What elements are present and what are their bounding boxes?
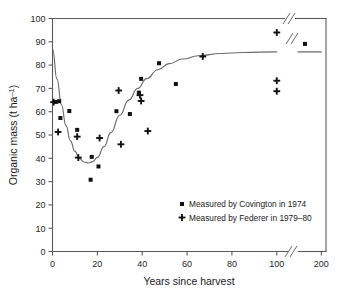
data-point-plus <box>118 141 125 148</box>
y-tick-label: 100 <box>30 14 45 24</box>
y-tick-label: 60 <box>35 107 45 117</box>
y-axis-title-main: Organic mass (t ha <box>7 96 19 185</box>
data-point-square <box>157 61 161 65</box>
legend-plus-marker <box>179 214 186 221</box>
data-point-plus <box>138 98 145 105</box>
legend-entry-label: Measured by Covington in 1974 <box>189 199 307 209</box>
data-point-square <box>174 82 178 86</box>
y-tick-label: 40 <box>35 154 45 164</box>
x-tick-label: 80 <box>227 259 237 269</box>
data-point-plus <box>273 88 280 95</box>
x-tick-label: 200 <box>314 259 329 269</box>
y-tick-label: 90 <box>35 37 45 47</box>
data-point-square <box>114 109 118 113</box>
data-point-plus <box>199 53 206 60</box>
y-tick-label: 20 <box>35 200 45 210</box>
series-federer-markers <box>50 29 280 161</box>
y-axis-title-tail: ) <box>7 85 19 89</box>
data-point-plus <box>96 135 103 142</box>
figure-container: 0102030405060708090100 020406080100200 Y… <box>0 0 348 297</box>
data-point-plus <box>115 87 122 94</box>
chart-legend: Measured by Covington in 1974Measured by… <box>179 199 312 223</box>
y-axis-ticks: 0102030405060708090100 <box>30 14 52 257</box>
y-axis-title-superscript: –1 <box>7 88 16 96</box>
y-tick-label: 80 <box>35 60 45 70</box>
y-axis-title: Organic mass (t ha–1) <box>7 85 20 186</box>
data-point-plus <box>74 133 81 140</box>
data-point-square <box>75 128 79 132</box>
data-point-square <box>57 99 61 103</box>
data-point-square <box>303 42 307 46</box>
data-point-square <box>139 77 143 81</box>
x-tick-label: 100 <box>269 259 284 269</box>
data-point-plus <box>55 129 62 136</box>
data-point-square <box>58 116 62 120</box>
x-tick-label: 20 <box>92 259 102 269</box>
x-tick-label: 0 <box>50 259 55 269</box>
data-point-square <box>96 164 100 168</box>
legend-square-marker <box>180 202 184 206</box>
y-tick-label: 70 <box>35 84 45 94</box>
y-tick-label: 0 <box>40 247 45 257</box>
data-point-square <box>128 112 132 116</box>
y-tick-label: 10 <box>35 224 45 234</box>
fitted-trend-curve <box>53 49 322 163</box>
x-tick-label: 40 <box>137 259 147 269</box>
data-point-square <box>67 109 71 113</box>
x-axis-title: Years since harvest <box>143 275 234 287</box>
data-point-plus <box>273 29 280 36</box>
data-point-square <box>90 155 94 159</box>
fit-curve-segment-main <box>53 49 277 163</box>
data-point-square <box>89 178 93 182</box>
y-tick-label: 30 <box>35 177 45 187</box>
data-point-plus <box>75 154 82 161</box>
data-point-plus <box>273 77 280 84</box>
legend-entry-label: Measured by Federer in 1979–80 <box>189 213 312 223</box>
data-point-plus <box>50 99 57 106</box>
series-covington-markers <box>54 42 307 182</box>
x-tick-label: 60 <box>182 259 192 269</box>
y-axis-title-group: Organic mass (t ha–1) <box>7 85 20 186</box>
data-point-plus <box>144 128 151 135</box>
y-tick-label: 50 <box>35 130 45 140</box>
organic-mass-scatter-chart: 0102030405060708090100 020406080100200 Y… <box>0 0 348 297</box>
